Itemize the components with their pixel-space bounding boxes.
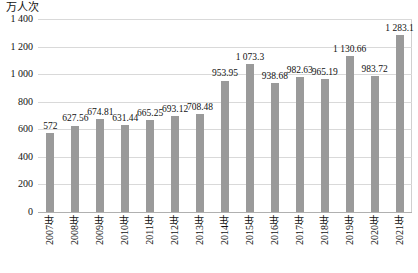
bar-value-label: 982.63 [287, 65, 313, 75]
y-axis-tick-label: 800 [0, 97, 33, 107]
bar-slot: 1 130.66 [337, 19, 362, 212]
bar[interactable] [346, 56, 354, 212]
bar-slot: 953.95 [213, 19, 238, 212]
bar-slot: 938.68 [262, 19, 287, 212]
y-axis-tick-label: 1 400 [0, 14, 33, 24]
x-axis-tick-label: 2011年 [145, 215, 155, 245]
y-axis-tick-label: 400 [0, 152, 33, 162]
bar-slot: 983.72 [362, 19, 387, 212]
bar-value-label: 693.12 [162, 104, 188, 114]
y-axis-tick-label: 600 [0, 124, 33, 134]
bar[interactable] [146, 120, 154, 212]
bar-slot: 572 [38, 19, 63, 212]
bar[interactable] [221, 81, 229, 213]
bar[interactable] [121, 125, 129, 212]
x-axis-tick-label: 2014年 [220, 215, 230, 245]
bar[interactable] [96, 119, 104, 212]
bar[interactable] [246, 64, 254, 212]
y-axis-tick-label: 1 200 [0, 42, 33, 52]
bar[interactable] [396, 35, 404, 212]
bar-slot: 693.12 [163, 19, 188, 212]
bar-value-label: 983.72 [362, 64, 388, 74]
x-axis-tick-label: 2015年 [245, 215, 255, 245]
bar-value-label: 938.68 [262, 71, 288, 81]
x-axis-tick-label: 2020年 [370, 215, 380, 245]
bar-slot: 631.44 [113, 19, 138, 212]
bar-value-label: 665.25 [137, 108, 163, 118]
bar-slot: 1 073.3 [237, 19, 262, 212]
bar-value-label: 708.48 [187, 102, 213, 112]
bar[interactable] [71, 126, 79, 213]
bar-slot: 708.48 [188, 19, 213, 212]
gridline [38, 212, 412, 213]
y-axis-unit-label: 万人次 [6, 1, 39, 13]
x-axis-tick-label: 2010年 [120, 215, 130, 245]
figure-caption [32, 264, 412, 273]
y-axis-tick-label: 0 [0, 207, 33, 217]
x-axis-tick-label: 2007年 [45, 215, 55, 245]
bar-slot: 627.56 [63, 19, 88, 212]
bar-value-label: 1 283.1 [385, 23, 414, 33]
bar-chart: 万人次 572627.56674.81631.44665.25693.12708… [0, 0, 418, 273]
bar-value-label: 1 073.3 [236, 52, 265, 62]
x-axis-tick-label: 2008年 [70, 215, 80, 245]
y-axis-tick-label: 1 000 [0, 69, 33, 79]
plot-area: 572627.56674.81631.44665.25693.12708.489… [38, 19, 412, 212]
bar[interactable] [196, 114, 204, 212]
y-axis-tick-label: 200 [0, 179, 33, 189]
x-axis-tick-label: 2017年 [295, 215, 305, 245]
x-axis-tick-label: 2013年 [195, 215, 205, 245]
bar[interactable] [46, 133, 54, 212]
x-axis-tick-label: 2018年 [320, 215, 330, 245]
x-axis-tick-label: 2021年 [395, 215, 405, 245]
x-axis-tick-label: 2016年 [270, 215, 280, 245]
bar[interactable] [271, 83, 279, 212]
bar-slot: 1 283.1 [387, 19, 412, 212]
bar-value-label: 674.81 [87, 107, 113, 117]
x-axis-tick-label: 2009年 [95, 215, 105, 245]
bar[interactable] [296, 77, 304, 212]
bar-slot: 665.25 [138, 19, 163, 212]
x-axis-tick-label: 2012年 [170, 215, 180, 245]
bar[interactable] [371, 76, 379, 212]
bar-value-label: 965.19 [312, 67, 338, 77]
bar[interactable] [171, 116, 179, 212]
bar-slot: 674.81 [88, 19, 113, 212]
bar-value-label: 572 [43, 121, 57, 131]
bar-slot: 982.63 [287, 19, 312, 212]
bar-value-label: 631.44 [112, 113, 138, 123]
bar-value-label: 953.95 [212, 68, 238, 78]
bar-value-label: 627.56 [62, 113, 88, 123]
x-axis-tick-label: 2019年 [345, 215, 355, 245]
bar[interactable] [321, 79, 329, 212]
